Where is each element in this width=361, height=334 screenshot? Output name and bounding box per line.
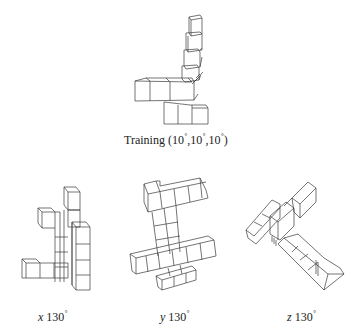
degree-symbol: ° [184, 132, 187, 140]
axis-label-x: x [38, 310, 43, 324]
cube-structure-x130 [18, 182, 98, 294]
angle-z: 10 [209, 133, 221, 147]
degree-symbol: ° [203, 132, 206, 140]
z-rotation-cube-figure [242, 178, 347, 290]
degree-symbol: ° [313, 309, 316, 317]
caption-y130: y 130° [160, 309, 190, 325]
cube-structure-z130 [242, 178, 347, 290]
angle-x: 10 [172, 133, 184, 147]
y-rotation-cube-figure [128, 176, 223, 291]
angle-y: 10 [190, 133, 202, 147]
degree-symbol: ° [65, 309, 68, 317]
axis-label-z: z [287, 310, 292, 324]
angle-value: 130 [168, 310, 186, 324]
degree-symbol: ° [187, 309, 190, 317]
caption-z130: z 130° [287, 309, 316, 325]
training-cube-figure [130, 12, 215, 130]
caption-training-prefix: Training ( [124, 133, 172, 147]
cube-structure-training [130, 12, 215, 130]
caption-x130: x 130° [38, 309, 68, 325]
axis-label-y: y [160, 310, 165, 324]
caption-training: Training (10°,10°,10°) [124, 132, 228, 148]
angle-value: 130 [295, 310, 313, 324]
cube-structure-y130 [128, 176, 223, 291]
caption-training-suffix: ) [224, 133, 228, 147]
x-rotation-cube-figure [18, 182, 98, 294]
angle-value: 130 [46, 310, 64, 324]
